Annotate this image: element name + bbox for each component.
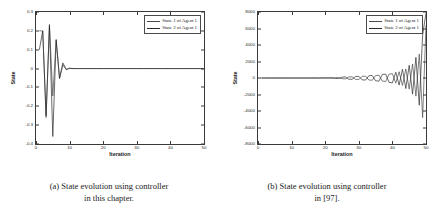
legend-a: State 1 of Agent 1 State 2 of Agent 1 xyxy=(144,15,201,34)
x-tick-label: 10 xyxy=(67,146,72,150)
y-tick-label: 8000 xyxy=(245,10,255,14)
caption-b: (b) State evolution using controller in … xyxy=(218,180,436,205)
y-tick-label: -4000 xyxy=(244,109,255,113)
y-tick-mark xyxy=(423,61,426,62)
y-tick-mark xyxy=(258,45,261,46)
legend-swatch-state1-icon xyxy=(147,21,160,22)
y-tick-label: 4000 xyxy=(245,43,255,47)
figure-panel-a: State 1 of Agent 1 State 2 of Agent 1 It… xyxy=(0,0,218,175)
legend-item-state2-b: State 2 of Agent 1 xyxy=(369,25,419,32)
legend-label-state2: State 2 of Agent 1 xyxy=(384,26,419,31)
caption-a-line1: (a) State evolution using controller xyxy=(0,180,218,192)
y-tick-label: 0.1 xyxy=(27,48,33,52)
series-line xyxy=(39,25,204,136)
y-tick-mark xyxy=(201,30,204,31)
legend-label-state2: State 2 of Agent 1 xyxy=(162,26,197,31)
legend-item-state1-a: State 1 of Agent 1 xyxy=(147,18,197,25)
x-tick-mark xyxy=(36,12,37,15)
y-tick-mark xyxy=(258,61,261,62)
y-tick-label: 0 xyxy=(253,76,255,80)
series-line xyxy=(39,24,204,117)
x-axis-title-b: Iteration xyxy=(331,152,352,157)
y-tick-mark xyxy=(36,87,39,88)
y-tick-label: 0.3 xyxy=(27,10,33,14)
x-tick-label: 40 xyxy=(390,146,395,150)
caption-a: (a) State evolution using controller in … xyxy=(0,180,218,205)
x-tick-mark xyxy=(137,141,138,144)
legend-swatch-state1-icon xyxy=(369,21,382,22)
x-tick-mark xyxy=(170,12,171,15)
x-tick-mark xyxy=(325,12,326,15)
y-tick-label: -8000 xyxy=(244,142,255,146)
y-tick-label: 0.2 xyxy=(27,29,33,33)
x-tick-label: 0 xyxy=(35,146,37,150)
x-tick-mark xyxy=(103,141,104,144)
y-tick-mark xyxy=(201,68,204,69)
x-tick-mark xyxy=(137,12,138,15)
y-tick-label: 0 xyxy=(31,66,33,70)
y-tick-label: -0.2 xyxy=(25,104,33,108)
y-tick-mark xyxy=(423,28,426,29)
x-tick-mark xyxy=(392,141,393,144)
caption-b-line2: in [97]. xyxy=(218,192,436,204)
x-tick-mark xyxy=(359,141,360,144)
legend-b: State 1 of Agent 1 State 2 of Agent 1 xyxy=(366,15,423,34)
x-tick-mark xyxy=(392,12,393,15)
x-tick-mark xyxy=(204,12,205,15)
series-line xyxy=(261,25,426,117)
y-tick-label: -2000 xyxy=(244,92,255,96)
y-tick-mark xyxy=(423,78,426,79)
caption-a-line2: in this chapter. xyxy=(0,192,218,204)
x-tick-mark xyxy=(426,12,427,15)
legend-label-state1: State 1 of Agent 1 xyxy=(384,19,419,24)
figure-row: State 1 of Agent 1 State 2 of Agent 1 It… xyxy=(0,0,436,175)
x-tick-label: 20 xyxy=(323,146,328,150)
y-tick-label: -0.1 xyxy=(25,85,33,89)
x-tick-label: 40 xyxy=(168,146,173,150)
legend-swatch-state2-icon xyxy=(369,28,382,29)
y-tick-mark xyxy=(36,68,39,69)
legend-swatch-state2-icon xyxy=(147,28,160,29)
y-tick-label: -6000 xyxy=(244,125,255,129)
x-axis-title-a: Iteration xyxy=(109,152,130,157)
x-tick-label: 10 xyxy=(289,146,294,150)
y-tick-mark xyxy=(258,127,261,128)
x-tick-mark xyxy=(258,141,259,144)
x-tick-mark xyxy=(359,12,360,15)
y-tick-mark xyxy=(36,49,39,50)
y-tick-mark xyxy=(423,94,426,95)
x-tick-mark xyxy=(36,141,37,144)
y-tick-mark xyxy=(36,30,39,31)
y-axis-title-a: State xyxy=(11,71,16,84)
legend-item-state1-b: State 1 of Agent 1 xyxy=(369,18,419,25)
x-tick-mark xyxy=(292,12,293,15)
y-tick-mark xyxy=(423,111,426,112)
plot-area-b: State 1 of Agent 1 State 2 of Agent 1 It… xyxy=(257,11,427,145)
legend-label-state1: State 1 of Agent 1 xyxy=(162,19,197,24)
y-tick-mark xyxy=(36,125,39,126)
y-tick-mark xyxy=(201,49,204,50)
x-tick-mark xyxy=(170,141,171,144)
x-tick-label: 30 xyxy=(134,146,139,150)
x-tick-mark xyxy=(204,141,205,144)
y-tick-label: -0.3 xyxy=(25,123,33,127)
caption-b-line1: (b) State evolution using controller xyxy=(218,180,436,192)
x-tick-mark xyxy=(103,12,104,15)
figure-panel-b: State 1 of Agent 1 State 2 of Agent 1 It… xyxy=(218,0,436,175)
x-tick-mark xyxy=(292,141,293,144)
y-tick-label: 6000 xyxy=(245,26,255,30)
x-tick-mark xyxy=(325,141,326,144)
x-tick-label: 50 xyxy=(424,146,429,150)
y-tick-mark xyxy=(423,127,426,128)
y-tick-mark xyxy=(201,87,204,88)
y-tick-mark xyxy=(36,106,39,107)
x-tick-label: 30 xyxy=(356,146,361,150)
legend-item-state2-a: State 2 of Agent 1 xyxy=(147,25,197,32)
y-tick-mark xyxy=(258,28,261,29)
x-tick-mark xyxy=(70,12,71,15)
y-tick-mark xyxy=(201,106,204,107)
y-tick-label: 2000 xyxy=(245,59,255,63)
y-tick-mark xyxy=(201,125,204,126)
x-tick-mark xyxy=(258,12,259,15)
x-tick-mark xyxy=(70,141,71,144)
